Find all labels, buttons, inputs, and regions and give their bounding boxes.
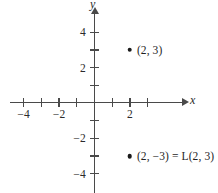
x-axis-tick — [76, 98, 77, 107]
y-axis-tick — [90, 85, 99, 86]
x-axis-tick — [147, 98, 148, 107]
point-label: (2, −3) = L(2, 3) — [137, 150, 214, 162]
y-axis-tick — [90, 120, 99, 121]
y-axis-tick-label: 2 — [62, 62, 86, 74]
y-axis-tick — [90, 49, 99, 50]
y-axis-tick-label: −4 — [62, 168, 86, 180]
y-axis-tick-label: −2 — [62, 132, 86, 144]
x-axis-tick-label: −4 — [17, 108, 30, 120]
x-axis-label: x — [190, 93, 195, 108]
y-axis-tick — [90, 173, 99, 174]
point-label: (2, 3) — [137, 44, 163, 56]
x-axis-arrowhead-icon — [182, 98, 189, 106]
coordinate-plane-figure: x y −4−22 42−2−4 (2, 3)(2, −3) = L(2, 3) — [0, 0, 218, 193]
y-axis-tick — [90, 32, 99, 33]
x-axis-line — [10, 102, 185, 103]
x-axis-tick — [41, 98, 42, 107]
y-axis-line — [94, 13, 95, 193]
point-marker — [128, 48, 133, 53]
y-axis-tick-label: 4 — [62, 26, 86, 38]
y-axis-tick — [90, 67, 99, 68]
x-axis-tick — [23, 98, 24, 107]
x-axis-tick — [129, 98, 130, 107]
x-axis-tick — [58, 98, 59, 107]
x-axis-tick-label: 2 — [127, 108, 133, 120]
y-axis-tick — [90, 138, 99, 139]
y-axis-tick — [90, 155, 99, 156]
x-axis-tick — [112, 98, 113, 107]
y-axis-label: y — [90, 0, 95, 12]
x-axis-tick-label: −2 — [53, 108, 66, 120]
point-marker — [128, 154, 133, 159]
